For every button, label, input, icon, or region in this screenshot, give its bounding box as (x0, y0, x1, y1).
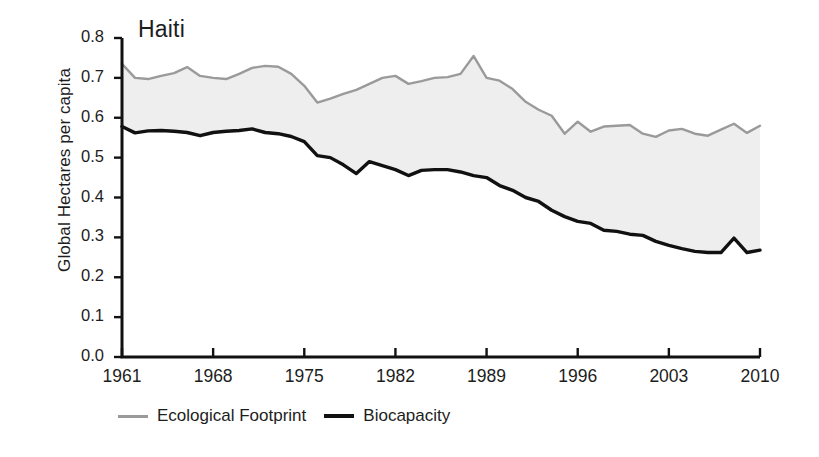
chart-legend: Ecological Footprint Biocapacity (118, 406, 450, 426)
legend-item-ecological-footprint: Ecological Footprint (118, 406, 306, 426)
y-tick-label: 0.0 (58, 346, 104, 365)
y-tick-label: 0.4 (58, 187, 104, 206)
x-tick-label: 1996 (543, 366, 613, 387)
legend-label-ecological-footprint: Ecological Footprint (157, 406, 306, 426)
chart-title: Haiti (138, 16, 185, 43)
area-band (122, 56, 760, 253)
x-tick-label: 1975 (269, 366, 339, 387)
x-tick-label: 1968 (178, 366, 248, 387)
plot-area (0, 0, 819, 457)
x-tick-label: 1989 (452, 366, 522, 387)
legend-label-biocapacity: Biocapacity (363, 406, 450, 426)
x-tick-label: 2003 (634, 366, 704, 387)
y-tick-label: 0.3 (58, 226, 104, 245)
legend-swatch-biocapacity (324, 414, 354, 418)
y-tick-label: 0.7 (58, 67, 104, 86)
y-tick-label: 0.8 (58, 27, 104, 46)
y-tick-label: 0.6 (58, 107, 104, 126)
y-tick-label: 0.2 (58, 266, 104, 285)
legend-swatch-ecological-footprint (118, 415, 148, 418)
y-tick-label: 0.5 (58, 147, 104, 166)
x-tick-label: 1961 (87, 366, 157, 387)
y-tick-label: 0.1 (58, 306, 104, 325)
x-tick-label: 1982 (360, 366, 430, 387)
legend-item-biocapacity: Biocapacity (324, 406, 450, 426)
chart-figure: Global Hectares per capita Haiti 0.00.10… (0, 0, 819, 457)
x-tick-label: 2010 (725, 366, 795, 387)
